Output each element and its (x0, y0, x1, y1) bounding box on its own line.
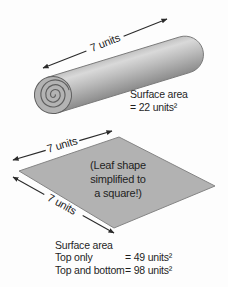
row-value: = 49 units² (125, 251, 172, 263)
table-row: Top and bottom = 98 units² (55, 264, 172, 276)
leaf-note-line2: simplified to (62, 172, 174, 186)
row-value: = 98 units² (125, 264, 172, 276)
leaf-note-line1: (Leaf shape (62, 158, 174, 172)
cylinder-surface-area-line1: Surface area (130, 88, 188, 101)
square-top-edge-label: 7 units (45, 134, 79, 154)
table-row: Top only = 49 units² (55, 251, 172, 263)
square-surface-area-table: Surface area Top only = 49 units² Top an… (55, 239, 172, 276)
figure-canvas: 7 units 7 units 7 units Surface area = 2… (0, 0, 228, 287)
square-surface-area-title: Surface area (55, 239, 172, 251)
cylinder-surface-area-text: Surface area = 22 units² (130, 88, 188, 113)
row-label: Top only (55, 251, 125, 263)
leaf-note-line3: a square!) (62, 186, 174, 200)
leaf-note: (Leaf shape simplified to a square!) (62, 158, 174, 200)
cylinder-length-label: 7 units (88, 31, 122, 54)
cylinder-surface-area-line2: = 22 units² (130, 101, 188, 114)
row-label: Top and bottom (55, 264, 125, 276)
